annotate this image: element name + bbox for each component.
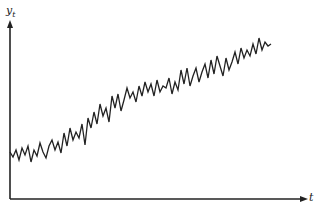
line-chart	[0, 0, 318, 209]
x-axis-label: t	[309, 191, 313, 204]
y-axis-label: yt	[6, 4, 15, 19]
series-line	[10, 38, 271, 162]
